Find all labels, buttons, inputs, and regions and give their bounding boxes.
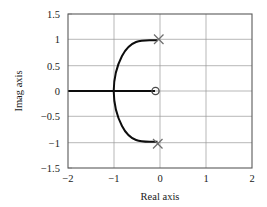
y-tick-label-1: 1 — [55, 34, 60, 45]
y-tick-labels: 1.5 1 0.5 0 −0.5 −1 −1.5 — [41, 9, 60, 174]
plot-svg: 1.5 1 0.5 0 −0.5 −1 −1.5 −2 −1 0 1 2 Rea… — [0, 0, 267, 207]
x-tick-label-1: 1 — [203, 173, 208, 184]
y-tick-label-neg1: −1 — [49, 138, 60, 149]
y-tick-label-neg0p5: −0.5 — [41, 111, 60, 122]
x-tick-label-2: 2 — [249, 173, 254, 184]
x-tick-label-neg1: −1 — [108, 173, 119, 184]
y-tick-label-1p5: 1.5 — [47, 9, 60, 20]
x-tick-labels: −2 −1 0 1 2 — [62, 173, 254, 184]
x-axis-title: Real axis — [141, 191, 180, 202]
x-tick-label-0: 0 — [157, 173, 162, 184]
y-tick-label-0p5: 0.5 — [47, 61, 60, 72]
y-tick-label-0: 0 — [55, 86, 60, 97]
y-axis-title: Imag axis — [13, 70, 24, 111]
y-tick-label-neg1p5: −1.5 — [41, 163, 60, 174]
x-tick-label-neg2: −2 — [62, 173, 73, 184]
root-locus-figure: 1.5 1 0.5 0 −0.5 −1 −1.5 −2 −1 0 1 2 Rea… — [0, 0, 267, 207]
